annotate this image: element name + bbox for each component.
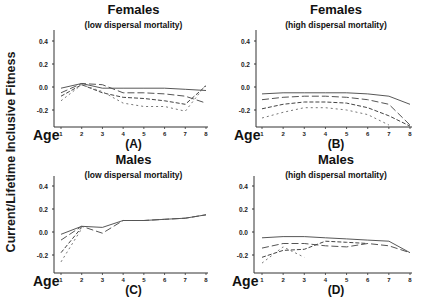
panel-title: Males [115, 152, 151, 167]
y-tick-label: -0.2 [37, 107, 49, 114]
chart-panel-c: Males(low dispersal mortality)0.40.20.0-… [33, 152, 208, 297]
panel-title: Males [318, 152, 354, 167]
series-line-medium-dash [61, 85, 206, 105]
y-tick-label: 0.2 [39, 61, 48, 68]
y-tick-label: 0.2 [241, 61, 250, 68]
x-tick-label: 8 [408, 131, 412, 137]
y-tick-label: 0.4 [241, 38, 250, 45]
x-tick-label: 7 [387, 131, 391, 137]
x-tick-label: 1 [260, 131, 264, 137]
y-tick-label: 0.4 [39, 38, 48, 45]
x-tick-label: 7 [184, 277, 188, 283]
series-line-short-dash [61, 85, 206, 112]
x-tick-label: 1 [59, 277, 63, 283]
y-tick-label: 0.0 [39, 229, 48, 236]
series-line-solid [61, 84, 206, 91]
y-tick-label: -0.2 [237, 252, 249, 259]
x-tick-label: 6 [163, 277, 167, 283]
series-line-medium-dash [262, 241, 368, 257]
x-tick-label: 2 [80, 277, 84, 283]
y-tick-label: -0.2 [239, 107, 251, 114]
x-tick-label: 5 [142, 277, 146, 283]
series-line-long-dash [262, 244, 410, 253]
x-tick-label: 5 [345, 277, 349, 283]
series-line-long-dash [262, 96, 410, 125]
figure-canvas: Females(low dispersal mortality)0.40.20.… [0, 0, 422, 305]
y-tick-label: 0.4 [39, 183, 48, 190]
x-tick-label: 2 [80, 131, 84, 137]
x-tick-label: 2 [281, 277, 285, 283]
y-tick-label: 0.2 [39, 206, 48, 213]
panel-subtitle: (high dispersal mortality) [285, 170, 387, 180]
y-tick-label: 0.0 [39, 84, 48, 91]
x-tick-label: 7 [387, 277, 391, 283]
series-line-medium-dash [262, 102, 410, 126]
x-tick-label: 6 [366, 131, 370, 137]
y-tick-label: 0.0 [241, 84, 250, 91]
series-line-solid [61, 215, 206, 235]
series-line-solid [262, 237, 410, 253]
y-tick-label: 0.4 [239, 183, 248, 190]
panel-label: (D) [328, 283, 345, 297]
y-tick-label: 0.2 [239, 206, 248, 213]
x-tick-label: 8 [408, 277, 412, 283]
y-tick-label: 0.0 [239, 229, 248, 236]
panel-label: (B) [328, 137, 345, 151]
x-tick-label: 8 [204, 131, 208, 137]
panel-subtitle: (high dispersal mortality) [285, 20, 387, 30]
panel-subtitle: (low dispersal mortality) [85, 20, 183, 30]
x-tick-label: 7 [184, 131, 188, 137]
x-tick-label: 3 [303, 131, 307, 137]
x-tick-label: 5 [142, 131, 146, 137]
x-tick-label: 6 [366, 277, 370, 283]
series-line-short-dash [262, 108, 389, 125]
x-tick-label: 6 [163, 131, 167, 137]
series-line-medium-dash [61, 227, 82, 252]
panel-label: (C) [125, 283, 142, 297]
chart-panel-b: Females(high dispersal mortality)0.40.20… [234, 2, 412, 151]
x-tick-label: 8 [204, 277, 208, 283]
series-line-long-dash [61, 84, 206, 104]
series-line-long-dash [61, 215, 206, 240]
chart-panel-a: Females(low dispersal mortality)0.40.20.… [33, 2, 208, 151]
x-tick-label: 1 [260, 277, 264, 283]
x-tick-label: 3 [101, 277, 105, 283]
panel-label: (A) [125, 137, 142, 151]
x-tick-label: 3 [101, 131, 105, 137]
panel-subtitle: (low dispersal mortality) [85, 170, 183, 180]
x-axis-label: Age [33, 127, 60, 143]
x-tick-label: 5 [345, 131, 349, 137]
x-axis-label: Age [234, 127, 261, 143]
chart-panel-d: Males(high dispersal mortality)0.40.20.0… [232, 152, 412, 297]
y-tick-label: -0.2 [37, 252, 49, 259]
x-tick-label: 2 [281, 131, 285, 137]
x-axis-label: Age [232, 273, 259, 289]
x-tick-label: 3 [303, 277, 307, 283]
x-axis-label: Age [33, 273, 60, 289]
x-tick-label: 1 [59, 131, 63, 137]
panel-title: Females [310, 2, 362, 17]
panel-title: Females [107, 2, 159, 17]
